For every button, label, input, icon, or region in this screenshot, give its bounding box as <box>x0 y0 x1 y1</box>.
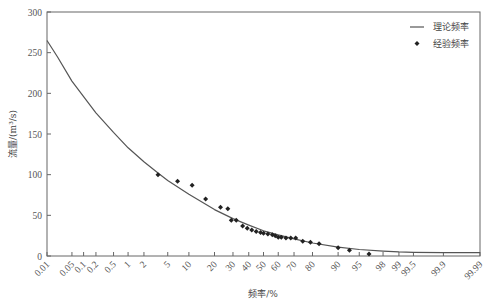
x-tick-label: 0.2 <box>85 259 101 275</box>
data-point <box>308 240 313 245</box>
x-tick-label: 99.99 <box>462 259 484 281</box>
x-tick-label: 60 <box>269 259 283 273</box>
y-tick-label: 0 <box>37 252 42 262</box>
frequency-chart: 050100150200250300 0.010.050.10.20.51251… <box>0 0 486 305</box>
y-tick-label: 200 <box>28 89 43 99</box>
x-tick-label: 20 <box>205 259 219 273</box>
data-point <box>245 226 250 231</box>
theoretical-frequency-curve <box>47 41 480 253</box>
x-tick-label: 70 <box>285 259 299 273</box>
x-tick-label: 99.9 <box>429 259 448 278</box>
y-tick-label: 300 <box>28 8 43 18</box>
data-point <box>175 179 180 184</box>
data-point <box>254 229 259 234</box>
data-point <box>156 172 161 177</box>
x-tick-label: 10 <box>180 259 194 273</box>
x-tick-label: 99.5 <box>399 259 418 278</box>
y-axis-title: 流量/(m³/s) <box>7 110 18 158</box>
y-tick-label: 150 <box>28 130 43 140</box>
y-axis: 050100150200250300 <box>28 8 51 262</box>
x-tick-label: 0.5 <box>102 259 118 275</box>
data-point <box>249 227 254 232</box>
x-tick-label: 2 <box>138 259 149 270</box>
data-point <box>336 245 341 250</box>
theory-curve-path <box>47 41 480 253</box>
data-point <box>234 218 239 223</box>
x-tick-label: 95 <box>350 259 364 273</box>
data-point <box>240 223 245 228</box>
data-point <box>288 236 293 241</box>
data-point <box>218 205 223 210</box>
x-tick-label: 0.01 <box>33 259 52 278</box>
legend: 理论频率 经验频率 <box>410 21 469 49</box>
data-point <box>225 206 230 211</box>
plot-frame <box>47 12 480 256</box>
empirical-frequency-points <box>156 172 372 256</box>
x-axis-title: 频率/% <box>248 288 278 299</box>
x-tick-label: 30 <box>224 259 238 273</box>
legend-label-theory: 理论频率 <box>433 21 469 32</box>
data-point <box>317 241 322 246</box>
x-tick-label: 50 <box>254 259 268 273</box>
data-point <box>203 197 208 202</box>
legend-label-empirical: 经验频率 <box>433 38 469 49</box>
x-tick-label: 1 <box>122 259 133 270</box>
plot-border <box>47 12 480 256</box>
data-point <box>190 183 195 188</box>
x-tick-label: 40 <box>239 259 253 273</box>
x-tick-label: 98 <box>374 259 388 273</box>
y-tick-label: 250 <box>28 48 43 58</box>
data-point <box>300 239 305 244</box>
y-tick-label: 100 <box>28 170 43 180</box>
y-tick-label: 50 <box>33 211 43 221</box>
legend-diamond-icon <box>415 41 420 46</box>
x-tick-label: 80 <box>303 259 317 273</box>
x-tick-label: 90 <box>329 259 343 273</box>
x-tick-label: 5 <box>162 259 173 270</box>
